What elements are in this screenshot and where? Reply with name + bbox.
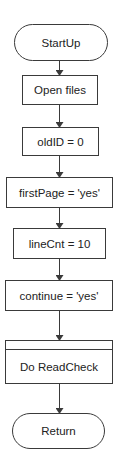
node-label: Open files [34,84,86,96]
node-label: Do ReadCheck [20,361,98,373]
node-startup: StartUp [15,25,108,61]
node-label: StartUp [42,37,81,49]
node-return: Return [13,414,105,449]
node-continue: continue = 'yes' [6,281,113,311]
node-old-id: oldID = 0 [23,128,99,156]
node-label: Return [41,425,76,437]
node-label: firstPage = 'yes' [19,187,100,199]
node-label: oldID = 0 [37,136,83,148]
node-label: continue = 'yes' [20,290,99,302]
node-label: lineCnt = 10 [29,238,91,250]
node-line-cnt: lineCnt = 10 [14,229,106,259]
node-open-files: Open files [23,76,98,105]
node-first-page: firstPage = 'yes' [7,178,113,208]
flowchart-canvas: StartUpOpen filesoldID = 0firstPage = 'y… [0,0,121,453]
node-do-readcheck: Do ReadCheck [6,341,113,384]
